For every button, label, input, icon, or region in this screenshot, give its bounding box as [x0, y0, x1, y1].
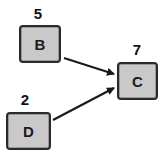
node-c-label: C	[132, 73, 143, 90]
node-b-label: B	[35, 36, 46, 53]
edge-d-to-c	[53, 88, 114, 120]
node-d: D	[6, 112, 51, 150]
node-d-value: 2	[21, 92, 29, 107]
node-b-value: 5	[34, 6, 42, 21]
node-c-value: 7	[133, 42, 141, 57]
edge-b-to-c	[64, 58, 114, 74]
node-b: B	[19, 25, 61, 63]
node-c: C	[117, 62, 158, 100]
node-d-label: D	[23, 123, 34, 140]
